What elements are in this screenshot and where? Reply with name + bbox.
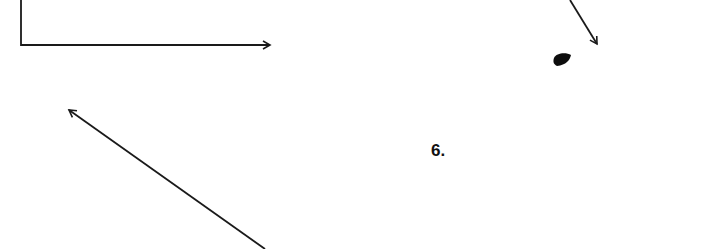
- diagonal-arrow-up-left: [69, 110, 265, 249]
- diagonal-arrow-down-right: [570, 0, 597, 44]
- step-number-label: 6.: [431, 141, 445, 161]
- ink-dot: [553, 53, 571, 66]
- diagram-canvas: [0, 0, 701, 249]
- corner-arrow-right: [21, 0, 270, 45]
